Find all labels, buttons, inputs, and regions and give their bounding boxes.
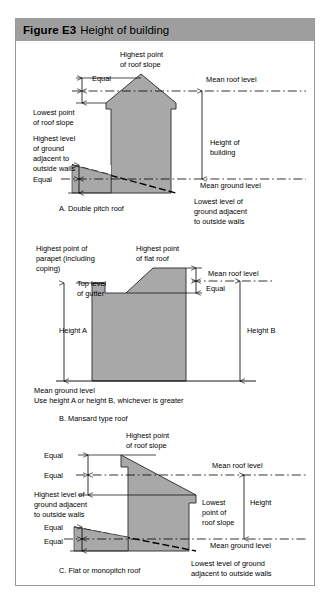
label-parapet-line2: parapet (including	[36, 254, 95, 263]
label-lowest-ground-line3: to outside walls	[194, 217, 245, 226]
caption-panel-a: A. Double pitch roof	[59, 204, 125, 213]
label-flat-roof-line1: Highest point	[136, 244, 179, 253]
label-highest-ground-line2: of ground	[33, 144, 64, 153]
label-highest-point-line2: of roof slope	[120, 60, 161, 69]
label-lowest-ground-line1: Lowest level of	[194, 197, 244, 206]
label-flat-roof-line2: of flat roof	[136, 254, 170, 263]
label-equal-bottom: Equal	[33, 175, 52, 184]
label-height-b: Height B	[247, 326, 275, 335]
building-shape-monopitch	[121, 455, 196, 551]
label-parapet-line1: Highest point of	[36, 244, 88, 253]
label-lowest-point-line1: Lowest point	[33, 108, 75, 117]
label-highest-ground-line1: Highest level	[33, 134, 76, 143]
label-highest-ground-line2-c: ground adjacent	[34, 500, 87, 509]
label-gutter-line2: of gutter	[77, 289, 105, 298]
figure-number: Figure E3	[23, 24, 76, 36]
label-highest-ground-line1-c: Highest level of	[34, 490, 85, 499]
label-highest-point-line1: Highest point	[120, 50, 163, 59]
building-shape-double-pitch	[106, 74, 176, 193]
label-mean-ground-level-mansard: Mean ground level	[34, 386, 95, 395]
label-highest-ground-line3-c: to outside walls	[34, 510, 85, 519]
label-gutter-line1: Top level	[77, 279, 107, 288]
label-equal-mansard: Equal	[206, 284, 225, 293]
figure-container: Figure E3 Height of building	[15, 18, 315, 586]
label-lowest-point-line2-c: point of	[202, 508, 227, 517]
caption-panel-c: C. Flat or monopitch roof	[59, 566, 141, 575]
label-mean-roof-level-mansard: Mean roof level	[208, 269, 259, 278]
label-lowest-ground-line2: ground adjacent	[194, 207, 247, 216]
panel-monopitch-roof: Highest point of roof slope Equal Equal …	[16, 427, 316, 587]
label-height-line1: Height of	[210, 138, 241, 147]
label-height-line2: building	[210, 148, 235, 157]
label-equal-1: Equal	[44, 451, 63, 460]
label-equal-3: Equal	[44, 523, 63, 532]
label-mean-roof-level-monopitch: Mean roof level	[212, 461, 263, 470]
label-lowest-point-line1-c: Lowest	[202, 498, 225, 507]
caption-panel-b: B. Mansard type roof	[59, 414, 129, 423]
label-equal-4: Equal	[44, 537, 63, 546]
label-mean-ground-level: Mean ground level	[200, 181, 261, 190]
label-highest-point-line1-c: Highest point	[126, 431, 169, 440]
label-highest-ground-line4: outside walls	[33, 164, 76, 173]
label-equal-2: Equal	[44, 471, 63, 480]
label-height-c: Height	[250, 498, 271, 507]
label-lowest-ground-line2-c: adjacent to outside walls	[191, 569, 272, 578]
panel-double-pitch-roof: Highest point of roof slope Equal Mean r…	[16, 41, 316, 233]
label-parapet-line3: coping)	[36, 264, 60, 273]
label-lowest-ground-line1-c: Lowest level of ground	[191, 559, 265, 568]
label-highest-point-line2-c: of roof slope	[126, 441, 167, 450]
label-height-a: Height A	[59, 326, 87, 335]
panel-mansard-caption-row: B. Mansard type roof	[16, 411, 316, 427]
label-mean-roof-level: Mean roof level	[206, 75, 257, 84]
panel-mansard-roof: Highest point of parapet (including copi…	[16, 233, 316, 411]
figure-header: Figure E3 Height of building	[16, 19, 314, 41]
label-mean-ground-level-monopitch: Mean ground level	[210, 541, 271, 550]
label-lowest-point-line2: of roof slope	[33, 118, 74, 127]
label-height-note: Use height A or height B, whichever is g…	[34, 396, 184, 405]
figure-title: Height of building	[80, 24, 169, 36]
label-lowest-point-line3-c: roof slope	[202, 518, 234, 527]
label-highest-ground-line3: adjacent to	[33, 154, 69, 163]
label-equal-top: Equal	[92, 74, 111, 83]
